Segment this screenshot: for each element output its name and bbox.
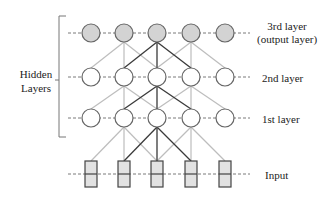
input-label: Input (265, 169, 288, 181)
hidden-layers-diagram: Hidden Layers 3rd layer (output layer) 2… (0, 0, 318, 197)
layer3-label: 3rd layer (output layer) (257, 20, 317, 45)
layer3-node-4 (182, 24, 200, 42)
edge-layer1-1-to-input-0 (91, 127, 124, 161)
layer1-node-4 (182, 109, 200, 127)
layer2-node-3 (148, 68, 166, 86)
layer1-node-5 (216, 109, 234, 127)
layer1-node-3 (148, 109, 166, 127)
layer1-node-1 (82, 109, 100, 127)
edge-layer3-1-to-layer2-0 (91, 42, 124, 68)
layer2-node-1 (82, 68, 100, 86)
layer2-node-4 (182, 68, 200, 86)
layer1-label: 1st layer (262, 113, 300, 125)
hidden-layers-label: Hidden Layers (14, 68, 58, 94)
layer3-node-5 (216, 24, 234, 42)
layer3-node-3 (148, 24, 166, 42)
hidden-label-line2: Layers (14, 82, 58, 94)
edge-layer2-1-to-layer1-0 (91, 86, 124, 109)
layer3-node-2 (115, 24, 133, 42)
layer2-label: 2nd layer (262, 72, 303, 84)
layer1-node-2 (115, 109, 133, 127)
layer2-node-5 (216, 68, 234, 86)
edge-layer3-3-to-layer2-4 (191, 42, 225, 68)
layer3-node-1 (82, 24, 100, 42)
edge-layer1-3-to-input-4 (191, 127, 225, 161)
layer3-title: 3rd layer (257, 20, 317, 32)
layer2-node-2 (115, 68, 133, 86)
edge-layer2-3-to-layer1-4 (191, 86, 225, 109)
layer3-subtitle: (output layer) (257, 33, 317, 45)
hidden-label-line1: Hidden (14, 68, 58, 80)
